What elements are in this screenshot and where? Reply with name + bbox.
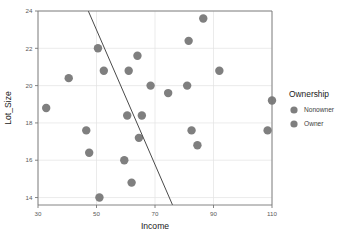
- x-tick-label: 50: [93, 210, 100, 217]
- data-point: [42, 104, 50, 112]
- legend-title: Ownership: [289, 89, 329, 99]
- legend-marker-icon: [290, 120, 297, 127]
- chart-canvas: 30507090110 141618202224 Income Lot_Size…: [0, 0, 347, 236]
- data-point: [124, 66, 132, 74]
- data-point: [138, 111, 146, 119]
- x-tick-label: 110: [267, 210, 277, 217]
- legend-marker-icon: [290, 106, 297, 113]
- data-point: [183, 81, 191, 89]
- y-tick-label: 16: [26, 156, 33, 163]
- y-tick-label: 24: [26, 7, 33, 14]
- data-point: [187, 126, 195, 134]
- scatter-plot-figure: 30507090110 141618202224 Income Lot_Size…: [0, 0, 347, 236]
- data-point: [123, 111, 131, 119]
- data-point: [82, 126, 90, 134]
- data-point: [263, 126, 271, 134]
- legend-item[interactable]: Owner: [290, 120, 324, 127]
- x-axis-title: Income: [141, 221, 169, 231]
- x-tick-label: 70: [152, 210, 159, 217]
- data-point: [133, 52, 141, 60]
- data-point: [184, 37, 192, 45]
- y-tick-label: 20: [26, 82, 33, 89]
- y-tick-label: 18: [26, 119, 33, 126]
- data-point: [95, 193, 103, 201]
- data-point: [65, 74, 73, 82]
- y-tick-label: 14: [26, 194, 33, 201]
- data-point: [164, 89, 172, 97]
- data-point: [193, 141, 201, 149]
- x-tick-label: 90: [210, 210, 217, 217]
- data-point: [94, 44, 102, 52]
- data-point: [146, 81, 154, 89]
- data-point: [199, 14, 207, 22]
- data-point: [120, 156, 128, 164]
- data-point: [215, 66, 223, 74]
- legend-item-label: Owner: [304, 120, 324, 127]
- legend-item-label: Nonowner: [304, 106, 335, 113]
- y-tick-label: 22: [26, 45, 33, 52]
- data-point: [127, 178, 135, 186]
- data-point: [85, 149, 93, 157]
- data-point: [100, 66, 108, 74]
- y-axis-title: Lot_Size: [3, 91, 13, 125]
- x-tick-label: 30: [35, 210, 42, 217]
